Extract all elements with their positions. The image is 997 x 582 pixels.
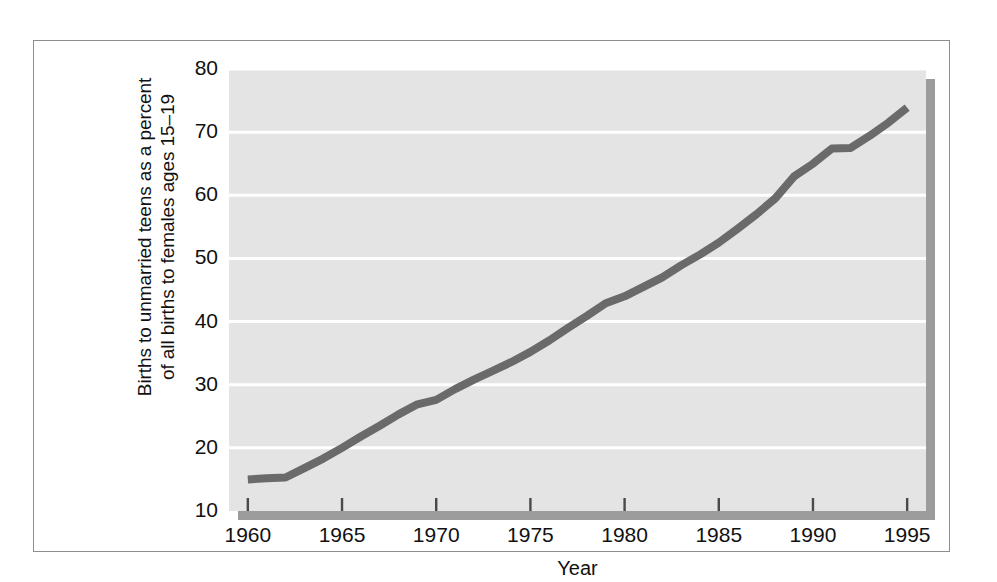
figure-frame: Births to unmarried teens as a percent o…: [33, 40, 950, 552]
x-tick-label: 1960: [213, 523, 283, 547]
y-tick-label: 30: [174, 372, 218, 396]
y-axis-title-line1: Births to unmarried teens as a percent: [133, 78, 156, 396]
plot-shadow-right: [926, 79, 935, 520]
plot-shadow-bottom: [238, 511, 935, 520]
x-tick-label: 1985: [684, 523, 754, 547]
plot-area: [229, 69, 926, 511]
y-tick-label: 40: [174, 309, 218, 333]
y-tick-label: 20: [174, 435, 218, 459]
y-tick-label: 60: [174, 182, 218, 206]
y-tick-label: 10: [174, 498, 218, 522]
y-tick-label: 80: [174, 56, 218, 80]
series-line: [229, 69, 926, 511]
data-line: [248, 108, 907, 480]
x-tick-label: 1990: [778, 523, 848, 547]
x-tick-label: 1975: [495, 523, 565, 547]
x-tick-label: 1980: [590, 523, 660, 547]
x-tick-label: 1995: [872, 523, 942, 547]
y-axis-tick-labels: 1020304050607080: [166, 69, 218, 511]
x-axis-tick-labels: 19601965197019751980198519901995: [229, 523, 926, 551]
x-tick-label: 1965: [307, 523, 377, 547]
y-tick-label: 70: [174, 119, 218, 143]
x-tick-label: 1970: [401, 523, 471, 547]
x-axis-title: Year: [229, 557, 926, 580]
y-tick-label: 50: [174, 245, 218, 269]
